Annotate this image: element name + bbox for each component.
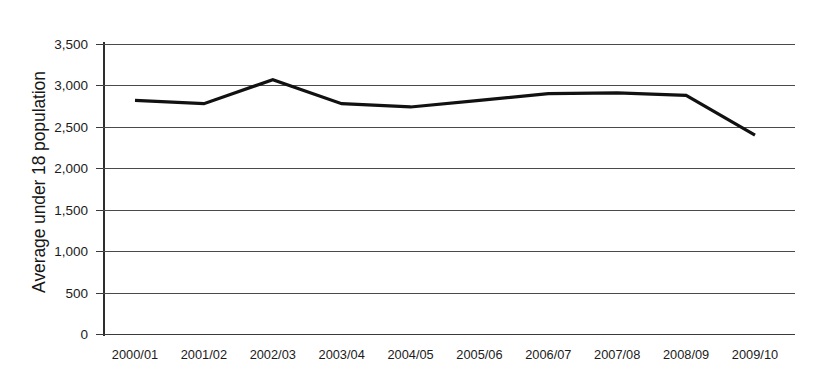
x-axis-tick-labels: 2000/012001/022002/032003/042004/052005/… xyxy=(0,347,817,367)
line-chart: Average under 18 population 05001,0001,5… xyxy=(0,0,817,385)
x-axis-tick-label: 2006/07 xyxy=(525,347,571,362)
y-axis-tick-mark xyxy=(96,85,103,86)
y-axis-tick-label: 3,000 xyxy=(32,78,88,93)
gridline xyxy=(103,251,795,252)
x-axis-tick-label: 2003/04 xyxy=(319,347,365,362)
y-axis-tick-label: 500 xyxy=(32,285,88,300)
gridline xyxy=(103,168,795,169)
y-axis-tick-mark xyxy=(96,127,103,128)
gridline xyxy=(103,44,795,45)
x-axis-tick-label: 2004/05 xyxy=(387,347,433,362)
y-axis-tick-mark xyxy=(96,210,103,211)
x-axis-tick-label: 2000/01 xyxy=(112,347,158,362)
y-axis-tick-mark xyxy=(96,293,103,294)
y-axis-tick-mark xyxy=(96,44,103,45)
y-axis-tick-label: 0 xyxy=(32,327,88,342)
y-axis-tick-mark xyxy=(96,251,103,252)
y-axis-tick-label: 2,000 xyxy=(32,161,88,176)
y-axis-tick-mark xyxy=(96,168,103,169)
y-axis-tick-label: 2,500 xyxy=(32,119,88,134)
x-axis-tick-label: 2007/08 xyxy=(594,347,640,362)
x-axis-tick-label: 2008/09 xyxy=(663,347,709,362)
gridline xyxy=(103,334,795,335)
x-axis-tick-label: 2005/06 xyxy=(456,347,502,362)
y-axis-tick-labels: 05001,0001,5002,0002,5003,0003,500 xyxy=(32,0,88,385)
x-axis-tick-label: 2009/10 xyxy=(732,347,778,362)
gridline xyxy=(103,85,795,86)
plot-area xyxy=(103,44,795,334)
y-axis-tick-mark xyxy=(96,334,103,335)
x-axis-tick-label: 2001/02 xyxy=(181,347,227,362)
x-axis-tick-label: 2002/03 xyxy=(250,347,296,362)
y-axis-tick-label: 1,500 xyxy=(32,202,88,217)
gridline xyxy=(103,293,795,294)
gridline xyxy=(103,127,795,128)
y-axis-tick-label: 1,000 xyxy=(32,244,88,259)
gridline xyxy=(103,210,795,211)
y-axis-tick-label: 3,500 xyxy=(32,37,88,52)
